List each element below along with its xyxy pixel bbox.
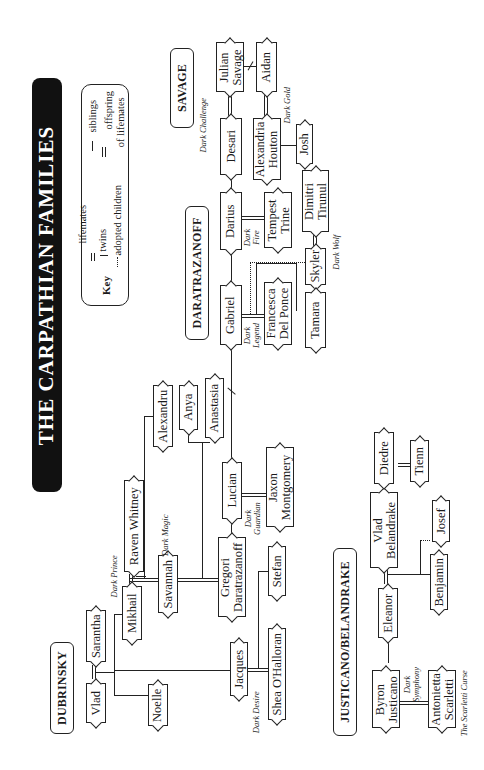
adopted-line: [250, 262, 305, 263]
person-desari[interactable]: Desari: [220, 118, 242, 175]
offspring-line: [388, 574, 420, 575]
title-banner: THE CARPATHIAN FAMILIES: [32, 78, 62, 492]
book-dark-legend: DarkLegend: [243, 318, 261, 352]
person-josh[interactable]: Josh: [296, 124, 313, 164]
person-dimitri-tirunul[interactable]: DimitriTirunul: [302, 170, 329, 232]
family-label-savage: SAVAGE: [170, 48, 194, 128]
book-dark-guardian: DarkGuardian: [243, 496, 261, 540]
page-title: THE CARPATHIAN FAMILIES: [37, 125, 58, 444]
offspring-symbol-icon: [102, 147, 106, 157]
person-stefan[interactable]: Stefan: [268, 546, 286, 596]
family-label-daratrazanoff: DARATRAZANOFF: [185, 206, 209, 340]
person-gregori-daratrazanoff[interactable]: GregoriDaratrazanoff: [218, 537, 246, 617]
person-tienn[interactable]: Tienn: [410, 440, 429, 482]
siblings-symbol-icon: [92, 141, 93, 151]
person-francesca-del-ponce[interactable]: FrancescaDel Ponce: [264, 282, 292, 345]
person-aidan[interactable]: Aidan: [256, 42, 277, 92]
offspring-line: [420, 540, 421, 574]
person-jaxon-montgomery[interactable]: JaxonMontgomery: [266, 447, 294, 527]
person-jacques[interactable]: Jacques: [230, 642, 248, 696]
offspring-line: [420, 574, 430, 575]
person-mikhail[interactable]: Mikhail: [122, 586, 142, 640]
person-gabriel[interactable]: Gabriel: [220, 285, 242, 345]
twins-symbol-icon: [100, 255, 108, 266]
person-anastasia[interactable]: Anastasia: [205, 378, 224, 438]
sibling-line: [202, 442, 203, 578]
person-anya[interactable]: Anya: [179, 385, 198, 430]
person-alexandria-houton[interactable]: AlexandriaHouton: [253, 118, 281, 180]
adopted-line: [250, 262, 251, 314]
book-dark-desire: Dark Desire: [250, 686, 262, 738]
family-label-justicano-belandrake: JUSTICANO/BELANDRAKE: [333, 548, 357, 736]
offspring-line: [296, 263, 297, 311]
person-noelle[interactable]: Noelle: [148, 684, 168, 726]
offspring-line: [114, 670, 230, 671]
key-label: Key: [96, 271, 116, 299]
family-label-dubrinsky: DUBRINSKY: [50, 642, 74, 734]
person-darius[interactable]: Darius: [220, 192, 242, 250]
offspring-line: [258, 571, 259, 669]
person-julian-savage[interactable]: JulianSavage: [216, 42, 244, 92]
key-offspring: offspring of lifemates: [98, 93, 126, 159]
person-lucian[interactable]: Lucian: [222, 462, 242, 519]
key-adopted: adopted children: [110, 173, 126, 271]
person-antonietta-scarletti[interactable]: AntoniettaScarletti: [428, 670, 456, 728]
offspring-line: [114, 614, 115, 696]
person-skyler[interactable]: Skyler: [305, 248, 326, 285]
lifemates-symbol-icon: [91, 253, 95, 261]
book-dark-challenge: Dark Challenge: [196, 80, 210, 170]
person-benjamin[interactable]: Benjamin: [430, 554, 448, 610]
legend-key: Key lifemates twins adopted children sib…: [81, 84, 129, 306]
person-tamara[interactable]: Tamara: [305, 292, 326, 348]
adopted-symbol-icon: [117, 257, 118, 267]
offspring-line: [96, 672, 114, 673]
person-raven-whitney[interactable]: Raven Whitney: [124, 480, 144, 572]
person-josef[interactable]: Josef: [432, 500, 450, 542]
person-alexandru[interactable]: Alexandru: [153, 385, 173, 447]
offspring-line: [256, 263, 257, 315]
twins-line: [188, 442, 210, 443]
book-dark-wolf: Dark Wolf: [330, 230, 342, 274]
book-dark-magic: Dark Magic: [160, 510, 172, 560]
book-dark-fire: DarkFire: [243, 222, 261, 252]
book-dark-gold: Dark Gold: [281, 80, 293, 130]
book-scarletti-curse: The Scarletti Curse: [458, 664, 470, 742]
lifemate-line: [242, 216, 264, 220]
person-vlad-belandrake[interactable]: VladBelandrake: [370, 492, 398, 568]
person-shea-ohalloran[interactable]: Shea O'Halloran: [268, 628, 286, 720]
person-savannah[interactable]: Savannah: [158, 555, 178, 613]
person-vlad-dubrinsky[interactable]: Vlad: [86, 683, 106, 723]
sibling-line: [144, 416, 145, 578]
person-byron-justicano[interactable]: ByronJusticano: [372, 670, 400, 728]
person-sarantha[interactable]: Sarantha: [86, 610, 106, 662]
sibling-line: [280, 145, 296, 146]
book-dark-symphony: DarkSymphony: [402, 664, 420, 704]
offspring-line: [258, 571, 268, 572]
person-tempest-trine[interactable]: TempestTrine: [264, 192, 292, 248]
key-twins: twins: [96, 225, 110, 269]
offspring-line: [256, 263, 296, 264]
offspring-line: [114, 695, 148, 696]
person-eleanor[interactable]: Eleanor: [378, 588, 398, 638]
adopted-line: [420, 540, 430, 541]
sibling-line: [136, 576, 146, 577]
book-dark-prince: Dark Prince: [108, 550, 120, 602]
person-diedre[interactable]: Diedre: [374, 432, 394, 484]
